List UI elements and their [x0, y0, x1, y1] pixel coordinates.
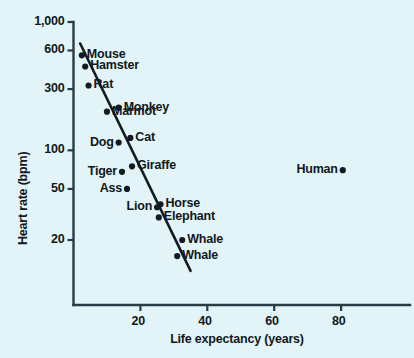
data-point: [154, 204, 160, 210]
point-label: Marmot: [112, 104, 156, 118]
y-tick-label: 100: [44, 142, 64, 156]
y-tick-label: 300: [44, 81, 64, 95]
y-tick-label: 20: [51, 232, 65, 246]
point-label: Whale: [182, 248, 218, 262]
data-point: [104, 109, 110, 115]
y-tick-label: 50: [51, 181, 65, 195]
data-point: [85, 82, 91, 88]
point-label: Giraffe: [137, 158, 176, 172]
data-point: [156, 214, 162, 220]
point-label: Whale: [187, 232, 223, 246]
point-label: Hamster: [90, 58, 139, 72]
point-label: Ass: [100, 181, 122, 195]
x-tick-label: 80: [0, 314, 414, 328]
data-point: [79, 52, 85, 58]
point-label: Rat: [94, 77, 114, 91]
data-point: [129, 163, 135, 169]
data-point: [82, 63, 88, 69]
data-point: [124, 186, 130, 192]
x-axis-title: Life expectancy (years): [0, 332, 414, 346]
y-tick-label: 600: [44, 42, 64, 56]
point-label: Cat: [135, 130, 155, 144]
data-point: [119, 169, 125, 175]
point-label: Elephant: [164, 209, 215, 223]
point-label: Tiger: [88, 164, 117, 178]
data-point: [127, 135, 133, 141]
data-point: [340, 167, 346, 173]
data-point: [174, 253, 180, 259]
y-tick-label: 1,000: [34, 14, 64, 28]
y-axis-title: Heart rate (bpm): [16, 152, 30, 245]
point-label: Dog: [90, 135, 114, 149]
data-point: [179, 237, 185, 243]
point-label: Horse: [165, 196, 199, 210]
data-point: [116, 139, 122, 145]
point-label: Lion: [127, 199, 153, 213]
point-label: Human: [296, 162, 337, 176]
